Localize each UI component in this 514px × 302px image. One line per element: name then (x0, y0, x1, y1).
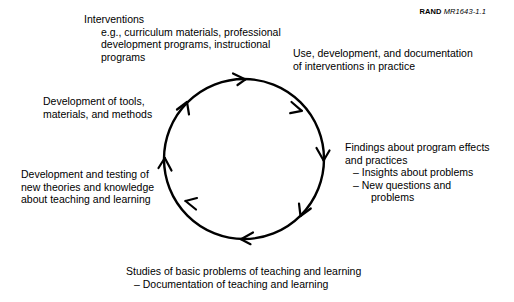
node-findings: Findings about program effects and pract… (345, 141, 490, 204)
node-interventions-line-1: e.g., curriculum materials, professional (84, 26, 281, 39)
figure-canvas: RAND MR1643-1.1 (0, 0, 514, 302)
node-development-tools-line-2: materials, and methods (43, 108, 152, 121)
cycle-circle-group (159, 74, 330, 245)
arrowhead-lower-left (186, 198, 198, 210)
node-use-development-line-1: Use, development, and documentation (293, 47, 473, 60)
node-development-testing-line-2: new theories and knowledge (21, 181, 154, 194)
node-use-development: Use, development, and documentation of i… (293, 47, 473, 72)
node-development-testing: Development and testing of new theories … (21, 168, 154, 206)
node-interventions-heading: Interventions (84, 13, 144, 25)
node-findings-bullet-2-cont: problems (345, 191, 490, 204)
node-interventions-line-3: programs (84, 51, 281, 64)
cycle-arrowheads (159, 74, 330, 245)
node-development-tools-line-1: Development of tools, (43, 95, 152, 108)
node-use-development-line-2: of interventions in practice (293, 60, 473, 73)
node-studies-line-1: Studies of basic problems of teaching an… (126, 265, 361, 278)
node-findings-line-2: and practices (345, 154, 490, 167)
arrowhead-upper-right (290, 102, 302, 113)
node-development-testing-line-3: about teaching and learning (21, 193, 154, 206)
node-interventions-line-2: development programs, instructional (84, 38, 281, 51)
node-interventions: Interventions e.g., curriculum materials… (84, 13, 281, 63)
node-development-tools: Development of tools, materials, and met… (43, 95, 152, 120)
node-studies-bullet-1: – Documentation of teaching and learning (126, 278, 361, 291)
node-studies: Studies of basic problems of teaching an… (126, 265, 361, 290)
node-development-testing-line-1: Development and testing of (21, 168, 154, 181)
node-findings-bullet-1: – Insights about problems (345, 166, 490, 179)
node-findings-line-1: Findings about program effects (345, 141, 490, 154)
node-findings-bullet-2: – New questions and (345, 179, 490, 192)
